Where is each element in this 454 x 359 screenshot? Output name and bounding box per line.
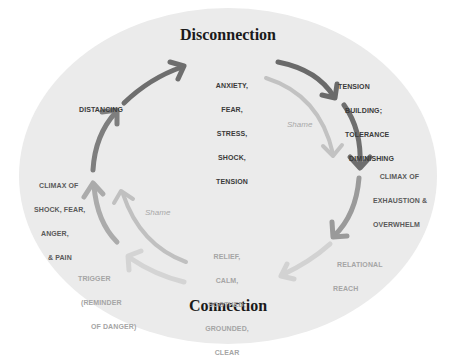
node-line: TENSION (212, 178, 252, 186)
arrow-trigger-to-climax-icon (84, 183, 117, 242)
node-line: EXHAUSTION & (373, 197, 427, 205)
node-line: SOOTHED, (204, 301, 250, 309)
node-line: ANXIETY, (212, 82, 252, 90)
arrow-distancing-to-anxiety-icon (124, 62, 184, 103)
node-relational-reach: RELATIONAL REACH (333, 245, 383, 301)
node-climax-shock: CLIMAX OF SHOCK, FEAR, ANGER, & PAIN (34, 166, 85, 270)
shame-label-left: Shame (145, 208, 170, 217)
arrow-climax-to-reach-icon (332, 178, 359, 237)
node-line: TOLERANCE (338, 131, 394, 139)
node-anxiety: ANXIETY, FEAR, STRESS, SHOCK, TENSION (212, 66, 252, 194)
node-relief: RELIEF, CALM, SOOTHED, GROUNDED, CLEAR (204, 237, 250, 359)
node-line: RELATIONAL (333, 261, 383, 269)
node-line: BUILDING; (338, 107, 394, 115)
node-climax-exhaustion: CLIMAX OF EXHAUSTION & OVERWHELM (373, 157, 427, 237)
node-line: RELIEF, (204, 253, 250, 261)
shame-label-right: Shame (287, 120, 312, 129)
node-line: (REMINDER (78, 299, 136, 307)
arrow-shame-left-icon (114, 191, 186, 262)
title-disconnection: Disconnection (168, 26, 288, 44)
node-line: ANGER, (34, 230, 85, 238)
node-line: OF DANGER) (78, 323, 136, 331)
node-line: CALM, (204, 277, 250, 285)
node-line: CLEAR (204, 349, 250, 357)
arrow-anxiety-to-tension-icon (278, 62, 337, 98)
node-line: TRIGGER (78, 275, 136, 283)
arrow-reach-to-relief-icon (281, 244, 330, 279)
node-line: CLIMAX OF (373, 173, 427, 181)
node-line: CLIMAX OF (34, 182, 85, 190)
node-line: SHOCK, (212, 154, 252, 162)
node-line: STRESS, (212, 130, 252, 138)
node-line: REACH (333, 285, 383, 293)
node-tension-building: TENSION BUILDING; TOLERANCE DIMINISHING (338, 67, 394, 171)
node-line: TENSION (338, 83, 394, 91)
node-line: OVERWHELM (373, 221, 427, 229)
node-line: DISTANCING (79, 106, 123, 114)
node-distancing: DISTANCING (79, 90, 123, 122)
node-line: & PAIN (34, 254, 85, 262)
node-trigger: TRIGGER (REMINDER OF DANGER) (78, 259, 136, 339)
node-line: SHOCK, FEAR, (34, 206, 85, 214)
node-line: GROUNDED, (204, 325, 250, 333)
node-line: FEAR, (212, 106, 252, 114)
